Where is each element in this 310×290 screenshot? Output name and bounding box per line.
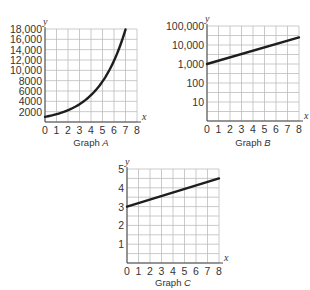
graph-caption: Graph C [155, 277, 191, 288]
grid-lines [45, 29, 137, 122]
graph-b: xy012345678101001,00010,000100,000Graph … [166, 13, 309, 148]
y-tick-label: 1 [118, 238, 124, 250]
y-tick-label: 4000 [19, 95, 43, 107]
x-tick-label: 1 [136, 265, 142, 277]
x-tick-label: 7 [123, 124, 129, 136]
figure-three-graphs: xy012345678200040006000800010,00012,0001… [0, 0, 310, 290]
x-tick-label: 0 [204, 123, 210, 135]
x-tick-label: 2 [227, 123, 233, 135]
y-tick-label: 10,000 [10, 64, 42, 76]
y-tick-label: 10 [192, 96, 204, 108]
y-tick-label: 6000 [19, 85, 43, 97]
y-axis-label: y [204, 13, 210, 24]
x-tick-label: 8 [296, 123, 302, 135]
y-axis-label: y [42, 16, 48, 27]
y-tick-label: 100,000 [166, 20, 204, 32]
x-tick-label: 3 [239, 123, 245, 135]
y-tick-label: 100 [186, 77, 204, 89]
x-tick-label: 2 [65, 124, 71, 136]
x-tick-label: 1 [54, 124, 60, 136]
data-curve [45, 30, 126, 117]
graph-a: xy012345678200040006000800010,00012,0001… [10, 16, 147, 148]
x-axis-label: x [223, 252, 229, 263]
x-tick-label: 3 [77, 124, 83, 136]
y-tick-label: 2000 [19, 106, 43, 118]
y-tick-label: 3 [118, 201, 124, 213]
x-tick-label: 8 [216, 265, 222, 277]
x-axis-label: x [303, 110, 309, 121]
x-tick-label: 4 [170, 265, 176, 277]
x-tick-label: 5 [262, 123, 268, 135]
y-tick-label: 8000 [19, 75, 43, 87]
y-tick-label: 18,000 [10, 23, 42, 35]
y-tick-label: 10,000 [172, 39, 204, 51]
x-tick-label: 5 [100, 124, 106, 136]
x-axis-label: x [141, 111, 147, 122]
x-tick-label: 6 [273, 123, 279, 135]
graph-caption: Graph B [235, 137, 271, 148]
y-tick-label: 1,000 [178, 58, 204, 70]
x-tick-label: 6 [111, 124, 117, 136]
y-tick-label: 14,000 [10, 44, 42, 56]
x-tick-label: 7 [205, 265, 211, 277]
y-tick-label: 16,000 [10, 33, 42, 45]
x-tick-label: 6 [193, 265, 199, 277]
x-tick-label: 3 [159, 265, 165, 277]
graph-c: xy01234567812345Graph C [118, 156, 229, 288]
y-tick-label: 2 [118, 219, 124, 231]
y-tick-label: 4 [118, 182, 124, 194]
x-tick-label: 4 [88, 124, 94, 136]
x-tick-label: 8 [134, 124, 140, 136]
x-tick-label: 1 [216, 123, 222, 135]
x-tick-label: 7 [285, 123, 291, 135]
x-tick-label: 0 [42, 124, 48, 136]
x-tick-label: 4 [250, 123, 256, 135]
y-tick-label: 5 [118, 163, 124, 175]
x-tick-label: 5 [182, 265, 188, 277]
x-tick-label: 2 [147, 265, 153, 277]
graph-caption: Graph A [73, 137, 108, 148]
y-axis-label: y [124, 156, 130, 167]
x-tick-label: 0 [124, 265, 130, 277]
y-tick-label: 12,000 [10, 54, 42, 66]
